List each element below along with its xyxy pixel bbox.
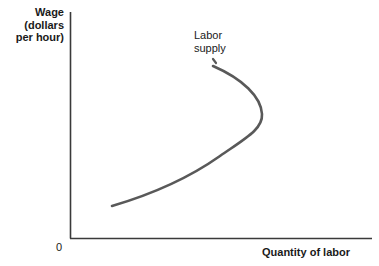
y-axis-title-line2: (dollars xyxy=(24,19,64,31)
x-axis-title: Quantity of labor xyxy=(262,246,350,259)
labor-supply-label-line1: Labor xyxy=(194,29,222,41)
labor-supply-label-line2: supply xyxy=(194,42,226,54)
annotation-leader-line xyxy=(213,59,216,63)
labor-supply-curve xyxy=(112,66,262,206)
y-axis-title: Wage(dollarsper hour) xyxy=(0,6,64,44)
origin-label: 0 xyxy=(56,241,62,254)
y-axis-title-line1: Wage xyxy=(35,6,64,18)
labor-supply-figure: Wage(dollarsper hour) Quantity of labor … xyxy=(0,0,379,266)
y-axis-title-line3: per hour) xyxy=(16,31,64,43)
labor-supply-label: Laborsupply xyxy=(194,29,226,55)
